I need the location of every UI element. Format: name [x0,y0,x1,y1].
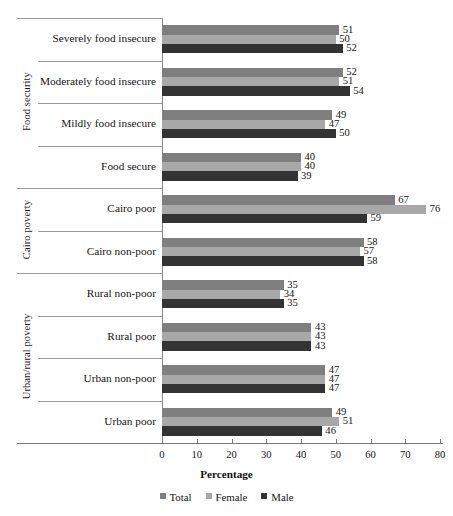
category-separator [38,316,162,317]
bar-male [162,86,350,95]
category-separator [38,401,162,402]
legend-swatch-total [160,493,166,499]
bar-female [162,77,339,86]
x-axis-tick [371,439,372,443]
bar-total [162,68,343,77]
x-axis-tick-label: 80 [420,449,453,460]
bar-female [162,120,325,129]
bar-male [162,44,343,53]
bar-female [162,332,311,341]
bar-value-label: 51 [343,416,354,427]
bar-value-label: 59 [371,213,382,224]
bar-total [162,238,364,247]
bar-total [162,323,311,332]
x-axis-tick [232,439,233,443]
bar-value-label: 76 [430,204,441,215]
x-axis-tick [197,439,198,443]
category-label: Moderately food insecure [40,75,156,87]
x-axis-tick [266,439,267,443]
bar-male [162,256,364,265]
legend-label: Male [271,491,293,503]
x-axis-tick [336,439,337,443]
bar-total [162,25,339,34]
legend-item[interactable]: Female [206,489,248,503]
bar-chart: 515052Severely food insecure525154Modera… [0,0,453,516]
bar-female [162,35,336,44]
bar-female [162,290,280,299]
bar-value-label: 39 [301,171,312,182]
x-axis-title: Percentage [0,468,453,480]
category-label: Food secure [101,160,156,172]
bar-value-label: 50 [339,128,350,139]
category-label: Mildly food insecure [61,117,156,129]
bar-male [162,426,322,435]
bar-female [162,247,360,256]
bar-value-label: 35 [287,298,298,309]
category-separator [38,103,162,104]
bar-total [162,110,332,119]
bar-value-label: 46 [325,426,336,437]
x-axis-tick [440,439,441,443]
bar-value-label: 54 [353,86,364,97]
category-separator [38,358,162,359]
category-separator [38,231,162,232]
plot-area: 515052Severely food insecure525154Modera… [0,0,453,516]
legend-item[interactable]: Male [261,489,293,503]
bar-total [162,408,332,417]
bar-male [162,214,367,223]
group-label: Cairo poverty [21,187,32,272]
category-label: Cairo poor [107,202,156,214]
legend-label: Female [216,491,248,503]
group-separator [17,188,162,189]
group-separator [17,273,162,274]
bar-value-label: 52 [346,43,357,54]
category-separator [38,61,162,62]
x-axis-tick [301,439,302,443]
bar-female [162,205,426,214]
category-label: Rural non-poor [87,287,156,299]
category-label: Severely food insecure [52,32,156,44]
bar-female [162,162,301,171]
bar-female [162,375,325,384]
bar-value-label: 47 [329,383,340,394]
bar-total [162,195,395,204]
bar-value-label: 43 [315,341,326,352]
group-label: Food security [21,17,32,187]
bar-male [162,299,284,308]
category-label: Rural poor [107,330,156,342]
category-label: Cairo non-poor [87,245,156,257]
legend-label: Total [170,491,192,503]
bar-total [162,365,325,374]
bar-female [162,417,339,426]
bar-total [162,280,284,289]
bar-male [162,129,336,138]
group-separator [17,18,162,19]
legend-swatch-female [206,493,212,499]
bar-value-label: 58 [367,256,378,267]
x-axis-tick [162,439,163,443]
chart-legend: TotalFemaleMale [0,489,453,503]
x-axis-tick [405,439,406,443]
x-axis-line [17,443,443,444]
bar-male [162,384,325,393]
category-separator [38,146,162,147]
category-label: Urban non-poor [84,372,156,384]
bar-male [162,341,311,350]
legend-swatch-male [261,493,267,499]
category-label: Urban poor [104,415,156,427]
legend-item[interactable]: Total [160,489,192,503]
bar-male [162,171,298,180]
group-label: Urban/rural poverty [21,272,32,442]
bar-total [162,153,301,162]
